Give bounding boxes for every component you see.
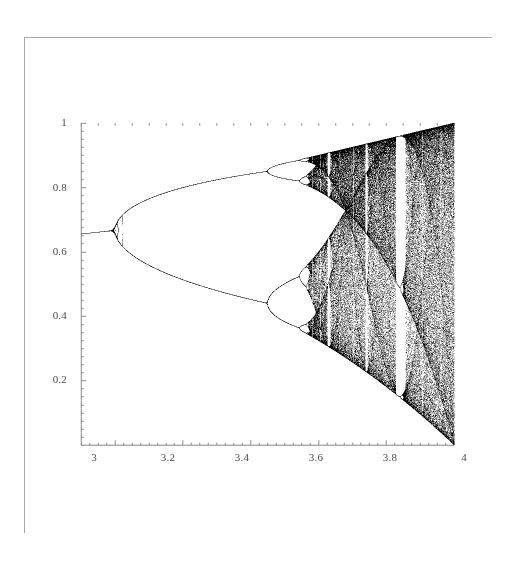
x-tick-label-3.8: 3.8 [376,452,404,463]
x-tick-label-3: 3 [80,452,108,463]
y-tick-label-0.2: 0.2 [35,374,67,385]
x-tick-label-3.4: 3.4 [228,452,256,463]
y-tick-label-0.8: 0.8 [35,182,67,193]
y-tick-label-0.6: 0.6 [35,246,67,257]
y-tick-label-1: 1 [43,117,67,128]
figure-frame: 1 0.8 0.6 0.4 0.2 3 3.2 3.4 3.6 3.8 4 [24,37,492,533]
x-tick-label-3.6: 3.6 [302,452,330,463]
y-tick-label-0.4: 0.4 [35,310,67,321]
bifurcation-plot-area: 1 0.8 0.6 0.4 0.2 3 3.2 3.4 3.6 3.8 4 [25,38,493,534]
page-canvas: 1 0.8 0.6 0.4 0.2 3 3.2 3.4 3.6 3.8 4 [0,0,520,568]
x-tick-label-3.2: 3.2 [154,452,182,463]
x-tick-label-4: 4 [450,452,478,463]
